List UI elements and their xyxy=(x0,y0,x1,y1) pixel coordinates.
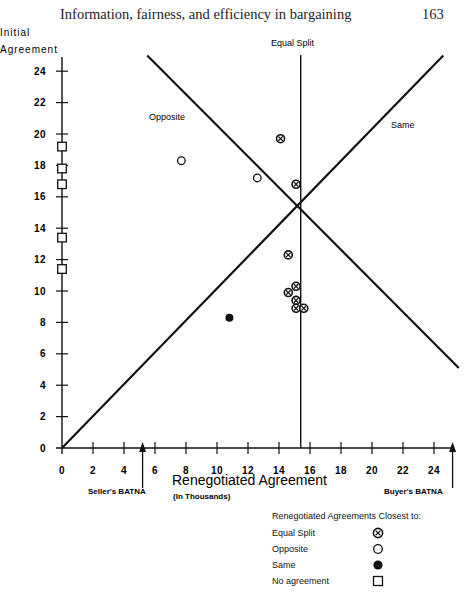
no-agreement-point xyxy=(58,164,67,173)
equal-split-point xyxy=(284,251,292,259)
equal-split-point xyxy=(292,304,300,312)
legend-title: Renegotiated Agreements Closest to: xyxy=(272,511,442,521)
legend-item-same: Same xyxy=(272,558,442,574)
y-tick-label: 14 xyxy=(34,223,46,234)
equal-split-point xyxy=(292,282,300,290)
y-tick-label: 2 xyxy=(40,411,46,422)
x-tick-label: 20 xyxy=(366,465,378,476)
legend: Renegotiated Agreements Closest to: Equa… xyxy=(272,511,442,590)
open-circle-icon xyxy=(372,543,384,555)
y-tick-label: 16 xyxy=(34,191,46,202)
opposite-point xyxy=(253,174,261,182)
filled-circle-icon xyxy=(372,559,384,571)
x-tick-label: 6 xyxy=(152,465,158,476)
y-tick-label: 10 xyxy=(34,286,46,297)
y-tick-label: 4 xyxy=(40,380,46,391)
x-tick-label: 4 xyxy=(121,465,127,476)
legend-item-opposite: Opposite xyxy=(272,542,442,558)
equal-split-point xyxy=(300,304,308,312)
y-tick-label: 0 xyxy=(40,443,46,454)
legend-item-equal-split: Equal Split xyxy=(272,526,442,542)
x-tick-label: 2 xyxy=(90,465,96,476)
no-agreement-point xyxy=(58,265,67,274)
x-tick-label: 24 xyxy=(428,465,440,476)
arrow-head-icon xyxy=(139,442,146,452)
seller-batna-label: Seller's BATNA xyxy=(88,487,146,496)
y-tick-label: 8 xyxy=(40,317,46,328)
y-tick-label: 24 xyxy=(34,66,46,77)
y-tick-label: 22 xyxy=(34,97,46,108)
y-axis-label-line1: Initial xyxy=(0,27,30,38)
equal-split-point xyxy=(292,296,300,304)
y-tick-label: 12 xyxy=(34,254,46,265)
legend-label: Opposite xyxy=(272,544,308,554)
arrow-head-icon xyxy=(449,442,456,452)
x-tick-label: 0 xyxy=(59,465,65,476)
y-axis-label-line2: Agreement xyxy=(0,44,58,55)
x-axis-subtitle: (In Thousands) xyxy=(173,492,231,501)
buyer-batna-label: Buyer's BATNA xyxy=(384,487,443,496)
no-agreement-point xyxy=(58,142,67,151)
equal-split-point xyxy=(292,180,300,188)
same-line-label: Same xyxy=(391,120,415,130)
legend-item-no-agreement: No agreement xyxy=(272,574,442,590)
no-agreement-point xyxy=(58,233,67,242)
data-points xyxy=(58,135,308,322)
x-tick-label: 18 xyxy=(335,465,347,476)
opposite-line-label: Opposite xyxy=(149,112,185,122)
circled-x-icon xyxy=(372,527,384,539)
y-tick-label: 20 xyxy=(34,129,46,140)
same-point xyxy=(225,314,233,322)
same-line xyxy=(62,56,443,449)
equal-split-point xyxy=(277,135,285,143)
no-agreement-point xyxy=(58,180,67,189)
y-tick-label: 18 xyxy=(34,160,46,171)
equal-split-point xyxy=(284,289,292,297)
legend-label: Same xyxy=(272,560,296,570)
equal-split-line-label: Equal Split xyxy=(271,38,315,48)
opposite-point xyxy=(178,157,186,165)
legend-label: Equal Split xyxy=(272,528,315,538)
legend-label: No agreement xyxy=(272,576,329,586)
x-axis-title: Renegotiated Agreement xyxy=(172,472,327,488)
reference-lines xyxy=(62,55,459,448)
y-tick-label: 6 xyxy=(40,348,46,359)
opposite-line xyxy=(147,56,459,368)
x-tick-label: 22 xyxy=(397,465,409,476)
open-square-icon xyxy=(372,575,384,587)
